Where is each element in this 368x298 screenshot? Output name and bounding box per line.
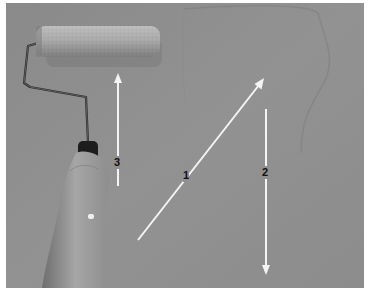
arrow-label-3: 3 <box>114 156 120 169</box>
ring <box>88 214 94 219</box>
photo-illustration <box>6 3 364 288</box>
arrow-label-1: 1 <box>183 169 189 182</box>
roller-photo: 3 1 2 <box>6 3 364 288</box>
arrow-label-2: 2 <box>262 166 268 179</box>
